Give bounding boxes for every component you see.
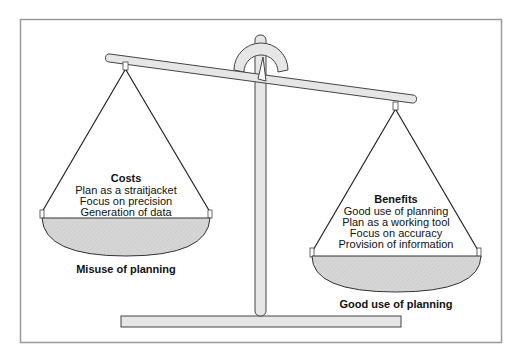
benefit-item: Provision of information bbox=[316, 239, 476, 250]
costs-heading: Costs bbox=[46, 172, 206, 184]
left-pan-caption: Misuse of planning bbox=[46, 263, 206, 275]
scale-base bbox=[121, 316, 401, 327]
benefits-heading: Benefits bbox=[316, 193, 476, 205]
cost-item: Generation of data bbox=[46, 207, 206, 218]
right-pan-text: Benefits Good use of planning Plan as a … bbox=[316, 193, 476, 250]
left-pan-text: Costs Plan as a straitjacket Focus on pr… bbox=[46, 172, 206, 218]
right-pan-caption: Good use of planning bbox=[316, 298, 476, 310]
